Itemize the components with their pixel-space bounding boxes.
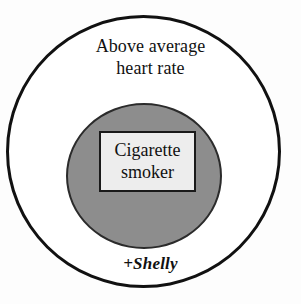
outer-set-label: Above average heart rate [0, 36, 301, 80]
outer-set-label-line-2: heart rate [0, 58, 301, 80]
euler-diagram: Above average heart rate Cigarette smoke… [0, 0, 301, 304]
inner-set-label-line-1: Cigarette [115, 140, 181, 162]
inner-set-label: Cigarette smoker [113, 140, 183, 184]
outer-set-label-line-1: Above average [0, 36, 301, 58]
inner-set-label-box: Cigarette smoker [99, 131, 196, 192]
inner-set-label-line-2: smoker [115, 162, 181, 184]
member-annotation-shelly: +Shelly [0, 254, 301, 274]
